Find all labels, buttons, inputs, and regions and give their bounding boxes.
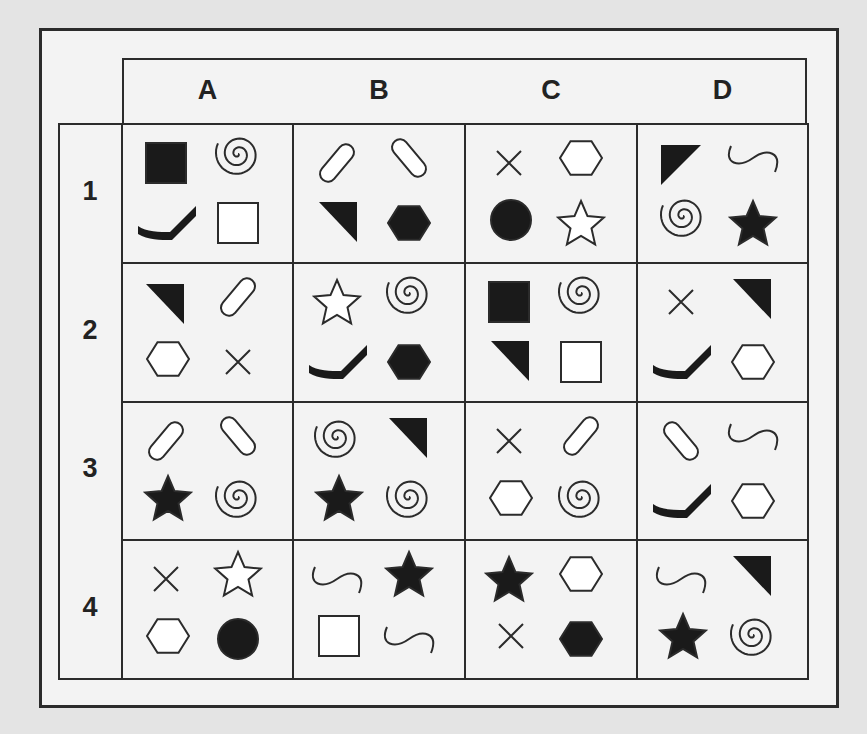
cross-icon	[497, 429, 521, 453]
cell-d2	[638, 264, 809, 403]
spiral-icon	[216, 482, 256, 517]
row-header-2: 2	[58, 315, 122, 346]
triangle-icon	[146, 284, 184, 324]
hexagon-icon	[732, 484, 774, 517]
hockey-stick-icon	[653, 345, 711, 379]
star-icon	[660, 614, 706, 657]
column-header-c: C	[465, 58, 637, 123]
capsule-right-icon	[561, 414, 602, 458]
spiral-icon	[387, 278, 427, 313]
hexagon-icon	[732, 345, 774, 378]
cross-icon	[154, 567, 178, 591]
square-icon	[489, 282, 529, 322]
column-header-d: D	[637, 58, 808, 123]
hockey-stick-icon	[309, 345, 367, 379]
star-icon	[386, 552, 432, 595]
row-header-4: 4	[58, 592, 122, 623]
cell-d4	[638, 541, 809, 680]
hockey-stick-icon	[653, 484, 711, 518]
circle-icon	[218, 619, 258, 659]
row-header-1: 1	[58, 176, 122, 207]
cross-icon	[669, 290, 693, 314]
cell-b4	[294, 541, 466, 680]
hexagon-icon	[147, 619, 189, 652]
triangle-icon	[733, 279, 771, 319]
cell-c3	[466, 403, 638, 541]
cell-a1	[123, 125, 294, 264]
spiral-icon	[315, 422, 355, 457]
hexagon-icon	[147, 342, 189, 375]
square-icon	[561, 342, 601, 382]
star-icon	[730, 201, 776, 244]
cross-icon	[226, 350, 250, 374]
symbol-grid	[121, 123, 809, 680]
spiral-icon	[216, 139, 256, 174]
wave-icon	[729, 146, 777, 172]
wave-icon	[657, 567, 705, 593]
star-icon	[558, 201, 604, 244]
cell-a3	[123, 403, 294, 541]
square-icon	[319, 616, 359, 656]
star-icon	[215, 552, 261, 595]
square-icon	[146, 143, 186, 183]
wave-icon	[313, 567, 361, 593]
cell-b2	[294, 264, 466, 403]
wave-icon	[385, 627, 433, 653]
cell-a2	[123, 264, 294, 403]
spiral-icon	[559, 482, 599, 517]
star-icon	[145, 476, 191, 519]
hexagon-icon	[560, 622, 602, 655]
spiral-icon	[661, 201, 701, 236]
wave-icon	[729, 424, 777, 450]
spiral-icon	[731, 620, 771, 655]
cell-c4	[466, 541, 638, 680]
capsule-right-icon	[218, 275, 259, 319]
hexagon-icon	[388, 206, 430, 239]
triangle-tl-icon	[661, 145, 701, 185]
hexagon-icon	[560, 141, 602, 174]
hexagon-icon	[560, 557, 602, 590]
cell-d3	[638, 403, 809, 541]
spiral-icon	[559, 278, 599, 313]
row-header-3: 3	[58, 453, 122, 484]
cell-c1	[466, 125, 638, 264]
star-icon	[316, 476, 362, 519]
star-icon	[486, 557, 532, 600]
circle-icon	[491, 200, 531, 240]
capsule-right-icon	[146, 419, 187, 463]
cell-d1	[638, 125, 809, 264]
spiral-icon	[387, 482, 427, 517]
column-header-b: B	[293, 58, 465, 123]
hexagon-icon	[490, 481, 532, 514]
triangle-icon	[319, 202, 357, 242]
triangle-icon	[733, 556, 771, 596]
cell-a4	[123, 541, 294, 680]
hockey-stick-icon	[138, 206, 196, 240]
star-icon	[314, 280, 360, 323]
hexagon-icon	[388, 345, 430, 378]
column-header-a: A	[122, 58, 293, 123]
capsule-right-icon	[317, 141, 358, 185]
triangle-icon	[491, 341, 529, 381]
cell-b3	[294, 403, 466, 541]
capsule-left-icon	[218, 414, 259, 458]
cell-b1	[294, 125, 466, 264]
capsule-left-icon	[389, 136, 430, 180]
cross-icon	[499, 624, 523, 648]
cross-icon	[497, 151, 521, 175]
capsule-left-icon	[661, 419, 702, 463]
triangle-icon	[389, 418, 427, 458]
square-icon	[218, 203, 258, 243]
cell-c2	[466, 264, 638, 403]
